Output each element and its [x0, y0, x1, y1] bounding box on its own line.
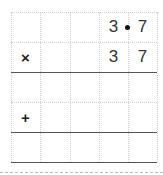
- digit-cell: 3: [99, 42, 128, 72]
- separator-line: [0, 172, 163, 173]
- answer-line: [11, 162, 157, 163]
- product-line: [11, 72, 157, 73]
- grid-line: [40, 12, 41, 162]
- digit-cell: 3: [99, 12, 128, 42]
- digit-cell: 7: [128, 42, 157, 72]
- digit-cell: 7: [128, 12, 157, 42]
- sum-line: [11, 132, 157, 133]
- decimal-point-icon: [125, 25, 130, 30]
- plus-operator: +: [11, 102, 40, 132]
- grid-line: [70, 12, 71, 162]
- multiplication-grid: 3 7 × 3 7 +: [11, 12, 157, 162]
- grid-line: [157, 12, 158, 162]
- grid-line: [11, 12, 12, 162]
- multiply-operator: ×: [11, 42, 40, 72]
